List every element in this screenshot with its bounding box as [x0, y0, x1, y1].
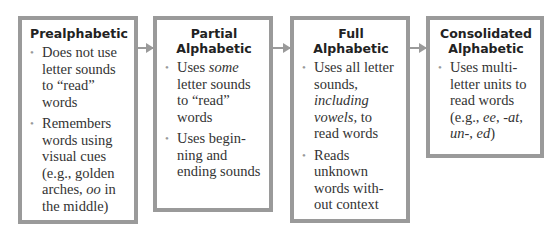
stage-box-consolidated-alphabetic: Consolidated Alphabetic •Uses multi-lett…: [426, 16, 544, 158]
bullet-icon: •: [30, 44, 34, 61]
stage-title: Full Alphabetic: [302, 26, 400, 56]
bullet-icon: •: [165, 59, 169, 76]
bullet-icon: •: [30, 115, 34, 132]
stage-box-partial-alphabetic: Partial Alphabetic •Uses some letter sou…: [153, 16, 273, 212]
arrow-2: [273, 47, 290, 49]
stage-list: •Does not use letter sounds to “read” wo…: [30, 44, 128, 214]
stage-title: Prealphabetic: [30, 26, 128, 41]
bullet-icon: •: [302, 147, 306, 164]
arrow-1: [138, 47, 153, 49]
stage-box-full-alphabetic: Full Alphabetic •Uses all letter sounds,…: [290, 16, 410, 223]
bullet-item: •Uses some letter sounds to “read” words: [165, 59, 263, 125]
stage-title: Consolidated Alphabetic: [438, 26, 534, 56]
bullet-item: •Remembers words using visual cues (e.g.…: [30, 115, 128, 214]
bullet-icon: •: [165, 130, 169, 147]
stage-list: •Uses all letter sounds, including vowel…: [302, 59, 400, 213]
bullet-item: •Reads unknown words with-out context: [302, 147, 400, 213]
stage-list: •Uses some letter sounds to “read” words…: [165, 59, 263, 180]
stage-box-prealphabetic: Prealphabetic •Does not use letter sound…: [18, 16, 138, 224]
bullet-icon: •: [438, 59, 442, 76]
bullet-item: •Uses begin-ning and ending sounds: [165, 130, 263, 180]
bullet-item: •Does not use letter sounds to “read” wo…: [30, 44, 128, 110]
stage-list: •Uses multi-letter units to read words (…: [438, 59, 534, 142]
arrow-3: [410, 47, 426, 49]
stage-title: Partial Alphabetic: [165, 26, 263, 56]
bullet-icon: •: [302, 59, 306, 76]
bullet-item: •Uses all letter sounds, including vowel…: [302, 59, 400, 142]
bullet-item: •Uses multi-letter units to read words (…: [438, 59, 534, 142]
